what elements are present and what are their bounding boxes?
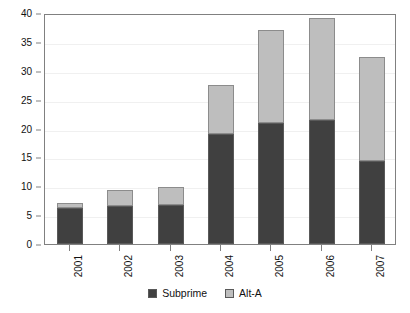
- legend-item: Subprime: [148, 288, 207, 299]
- bar-segment-subprime: [359, 161, 385, 244]
- bar-group: [107, 13, 133, 244]
- bar-segment-alt-a: [57, 203, 83, 208]
- bar-group: [309, 13, 335, 244]
- x-axis-tick-label: 2006: [326, 255, 336, 277]
- x-axis-tick-mark: [220, 245, 221, 251]
- legend-swatch-icon: [148, 289, 157, 298]
- x-axis-tick-label: 2007: [376, 255, 386, 277]
- bar-group: [158, 13, 184, 244]
- y-axis-tick-mark: [36, 129, 41, 130]
- x-axis-tick-mark: [69, 245, 70, 251]
- legend-label: Alt-A: [239, 288, 262, 299]
- stacked-bar-chart: 0510152025303540 20012002200320042005200…: [0, 0, 410, 313]
- legend-label: Subprime: [162, 288, 207, 299]
- y-axis-tick-mark: [36, 42, 41, 43]
- plot-area: [45, 15, 395, 244]
- y-axis-tick-mark: [36, 100, 41, 101]
- x-axis-tick-mark: [371, 245, 372, 251]
- bar-segment-alt-a: [158, 187, 184, 205]
- x-axis-tick-label: 2001: [74, 255, 84, 277]
- x-axis-tick-label: 2002: [124, 255, 134, 277]
- x-axis: 2001200220032004200520062007: [44, 245, 396, 290]
- bar-segment-subprime: [107, 206, 133, 244]
- x-axis-tick-mark: [170, 245, 171, 251]
- x-axis-tick-mark: [321, 245, 322, 251]
- legend-swatch-icon: [225, 289, 234, 298]
- y-axis-tick-mark: [36, 216, 41, 217]
- legend-item: Alt-A: [225, 288, 262, 299]
- y-axis-tick-label: 40: [21, 9, 32, 19]
- plot-frame: [44, 14, 396, 245]
- x-axis-tick-mark: [270, 245, 271, 251]
- y-axis-tick-mark: [36, 245, 41, 246]
- chart-legend: SubprimeAlt-A: [0, 288, 410, 299]
- bar-segment-subprime: [208, 134, 234, 244]
- x-axis-tick-label: 2005: [275, 255, 285, 277]
- bar-segment-alt-a: [107, 190, 133, 207]
- bar-segment-subprime: [158, 205, 184, 244]
- y-axis-tick-mark: [36, 158, 41, 159]
- bar-group: [57, 13, 83, 244]
- y-axis-tick-label: 10: [21, 182, 32, 192]
- bar-group: [258, 13, 284, 244]
- y-axis-tick-mark: [36, 14, 41, 15]
- bar-segment-subprime: [57, 208, 83, 244]
- y-axis-tick-mark: [36, 187, 41, 188]
- bar-segment-subprime: [309, 120, 335, 244]
- y-axis-tick-label: 5: [26, 211, 32, 221]
- y-axis-tick-label: 30: [21, 67, 32, 77]
- y-axis-tick-label: 0: [26, 240, 32, 250]
- y-axis-tick-label: 35: [21, 38, 32, 48]
- y-axis-tick-label: 20: [21, 125, 32, 135]
- bar-segment-subprime: [258, 123, 284, 244]
- x-axis-tick-label: 2003: [175, 255, 185, 277]
- bar-segment-alt-a: [258, 30, 284, 122]
- bar-segment-alt-a: [359, 57, 385, 161]
- x-axis-tick-label: 2004: [225, 255, 235, 277]
- y-axis-tick-label: 25: [21, 96, 32, 106]
- x-axis-tick-mark: [119, 245, 120, 251]
- y-axis: 0510152025303540: [0, 14, 40, 245]
- y-axis-tick-mark: [36, 71, 41, 72]
- bar-segment-alt-a: [309, 18, 335, 120]
- bar-group: [359, 13, 385, 244]
- y-axis-tick-label: 15: [21, 153, 32, 163]
- bar-segment-alt-a: [208, 85, 234, 135]
- bar-group: [208, 13, 234, 244]
